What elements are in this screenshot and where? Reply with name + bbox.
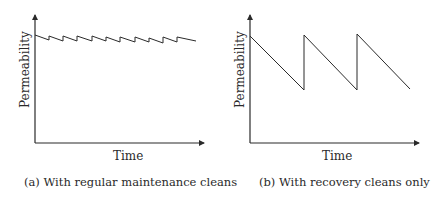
panel-b-y-axis-label: Permeability [233, 31, 247, 108]
panel-a-y-axis-label: Permeability [18, 31, 32, 108]
panel-a-permeability-line [35, 35, 196, 43]
figure-canvas [0, 0, 433, 198]
panel-b-x-axis-label: Time [322, 149, 352, 163]
panel-b-axes [250, 15, 419, 143]
panel-a-x-axis-label: Time [113, 149, 143, 163]
panel-a-caption: (a) With regular maintenance cleans [24, 175, 237, 189]
panel-a-axes [35, 15, 204, 143]
panel-b-caption: (b) With recovery cleans only [259, 175, 430, 189]
panel-b-permeability-line [250, 34, 410, 90]
